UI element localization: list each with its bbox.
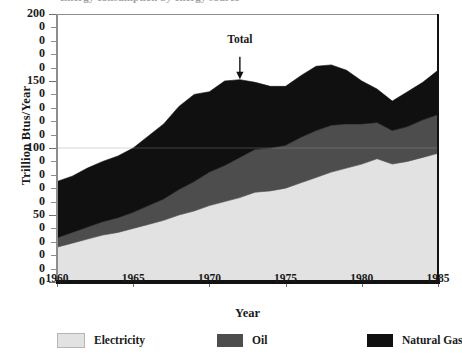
- plot-area: 2000000150000010000005000000 Total: [57, 14, 438, 282]
- legend-swatch-natural-gas: [367, 334, 393, 347]
- x-axis-title: Year: [57, 306, 438, 321]
- legend-swatch-oil: [217, 334, 243, 347]
- legend-item-oil[interactable]: Oil: [217, 332, 267, 348]
- legend-swatch-electricity: [57, 333, 85, 348]
- legend-label: Electricity: [94, 334, 145, 346]
- legend-label: Natural Gas: [402, 334, 462, 346]
- x-tick-label: 1985: [427, 272, 450, 284]
- stacked-area-series: [57, 14, 438, 282]
- y-tick-label: 0: [39, 274, 45, 289]
- axis-line-bottom: [56, 280, 440, 284]
- x-tick-label: 1970: [198, 272, 221, 284]
- x-tick-label: 1980: [350, 272, 373, 284]
- x-tick-label: 1965: [122, 272, 145, 284]
- axis-line-top: [57, 14, 438, 15]
- legend-label: Oil: [252, 334, 267, 346]
- clipped-caption-text: Energy consumption by energy source: [60, 0, 440, 3]
- x-tick-label: 1960: [46, 272, 69, 284]
- chart-legend: ElectricityOilNatural Gas: [57, 332, 447, 352]
- axis-line-left: [56, 14, 58, 282]
- x-tick-label: 1975: [274, 272, 297, 284]
- axis-line-right: [437, 14, 439, 282]
- legend-item-natural-gas[interactable]: Natural Gas: [367, 332, 462, 348]
- legend-item-electricity[interactable]: Electricity: [57, 332, 145, 348]
